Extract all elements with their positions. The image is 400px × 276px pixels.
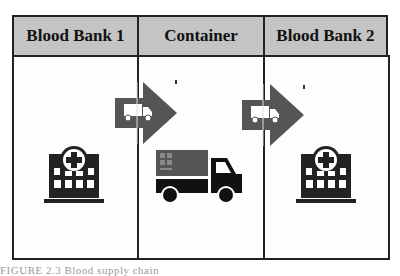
mark (175, 80, 177, 84)
header-label: Blood Bank 1 (26, 26, 124, 46)
mark (303, 85, 305, 89)
header-label: Blood Bank 2 (276, 26, 374, 46)
header-container: Container (137, 15, 265, 57)
delivery-truck-icon (156, 148, 244, 208)
truck-arrow-icon (242, 84, 304, 146)
figure-caption: FIGURE 2.3 Blood supply chain (0, 264, 159, 276)
hospital-icon (42, 146, 106, 206)
header-blood-bank-1: Blood Bank 1 (12, 15, 139, 57)
header-blood-bank-2: Blood Bank 2 (263, 15, 388, 57)
hospital-icon (294, 146, 358, 206)
truck-arrow-icon (115, 82, 177, 144)
header-label: Container (164, 26, 238, 46)
